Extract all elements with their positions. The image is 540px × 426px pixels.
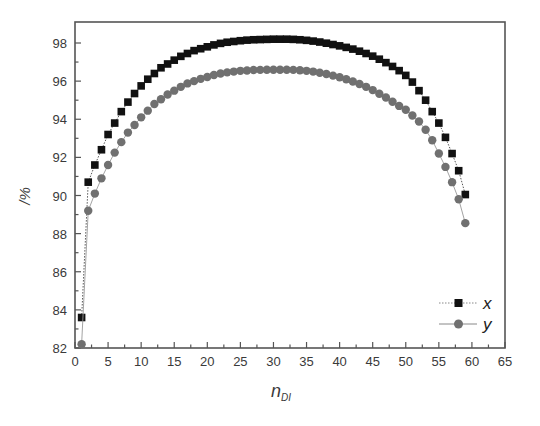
- legend-label: y: [482, 315, 493, 334]
- legend: xy: [439, 294, 493, 334]
- data-point: [177, 53, 185, 61]
- y-tick-label: 82: [53, 341, 67, 356]
- y-tick-label: 88: [53, 227, 67, 242]
- x-tick-label: 45: [365, 354, 379, 369]
- y-axis: 828486889092949698: [53, 36, 81, 356]
- data-point: [448, 150, 456, 158]
- circle-marker-icon: [454, 320, 463, 329]
- data-point: [349, 45, 357, 53]
- data-point: [461, 219, 469, 227]
- x-axis-title-main: n: [271, 381, 281, 401]
- data-point: [131, 90, 139, 98]
- data-point: [118, 108, 126, 116]
- data-point: [170, 56, 178, 64]
- x-tick-label: 30: [266, 354, 280, 369]
- x-tick-label: 5: [104, 354, 111, 369]
- data-point: [77, 340, 85, 348]
- data-point: [276, 35, 284, 43]
- data-point: [84, 178, 92, 186]
- data-point: [237, 37, 245, 45]
- data-point: [356, 47, 364, 55]
- data-point: [124, 98, 132, 106]
- data-point: [442, 134, 450, 142]
- data-point: [369, 52, 377, 60]
- data-point: [111, 119, 119, 127]
- data-point: [204, 43, 212, 51]
- data-point: [243, 36, 251, 44]
- data-point: [124, 128, 132, 136]
- data-point: [290, 36, 298, 44]
- data-point: [151, 70, 159, 78]
- data-point: [323, 39, 331, 47]
- data-point: [435, 149, 443, 157]
- data-point: [395, 67, 403, 75]
- data-point: [210, 41, 218, 49]
- data-point: [409, 78, 417, 86]
- data-point: [157, 64, 165, 72]
- y-axis-title: /%: [16, 187, 33, 206]
- x-tick-label: 50: [399, 354, 413, 369]
- data-point: [137, 82, 145, 90]
- data-point: [110, 148, 118, 156]
- data-point: [428, 136, 436, 144]
- data-point: [303, 37, 311, 45]
- data-point: [448, 178, 456, 186]
- y-tick-label: 96: [53, 74, 67, 89]
- data-point: [309, 37, 317, 45]
- x-tick-label: 40: [332, 354, 346, 369]
- x-tick-label: 35: [299, 354, 313, 369]
- data-point: [408, 111, 416, 119]
- y-tick-label: 98: [53, 36, 67, 51]
- data-point: [362, 50, 370, 58]
- data-point: [415, 117, 423, 125]
- x-tick-label: 55: [432, 354, 446, 369]
- data-point: [91, 189, 99, 197]
- square-marker-icon: [455, 299, 463, 307]
- data-point: [376, 55, 384, 63]
- line-chart: 828486889092949698 051015202530354045505…: [0, 0, 540, 426]
- data-point: [270, 35, 278, 43]
- data-point: [329, 41, 337, 49]
- x-axis-title-sub: DI: [281, 392, 291, 403]
- data-point: [454, 195, 462, 203]
- data-point: [197, 45, 205, 53]
- y-tick-label: 90: [53, 189, 67, 204]
- data-point: [441, 163, 449, 171]
- data-point: [422, 96, 430, 104]
- data-point: [184, 50, 192, 58]
- data-point: [98, 146, 106, 154]
- x-tick-label: 60: [465, 354, 479, 369]
- data-point: [428, 108, 436, 116]
- y-tick-label: 86: [53, 265, 67, 280]
- data-point: [144, 75, 152, 83]
- data-point: [84, 207, 92, 215]
- legend-item-x: x: [439, 294, 492, 313]
- data-point: [455, 167, 463, 175]
- data-point: [117, 138, 125, 146]
- y-tick-label: 84: [53, 303, 67, 318]
- legend-item-y: y: [439, 315, 493, 334]
- data-point: [263, 36, 271, 44]
- data-point: [296, 36, 304, 44]
- data-point: [336, 42, 344, 50]
- data-point: [415, 87, 423, 95]
- data-point: [382, 59, 390, 67]
- x-tick-label: 15: [167, 354, 181, 369]
- data-point: [97, 174, 105, 182]
- data-point: [130, 121, 138, 129]
- data-point: [421, 126, 429, 134]
- data-point: [402, 106, 410, 114]
- data-point: [250, 36, 258, 44]
- data-point: [435, 119, 443, 127]
- data-point: [164, 60, 172, 68]
- legend-label: x: [482, 294, 492, 313]
- x-axis-title: nDI: [271, 381, 291, 403]
- x-tick-label: 25: [233, 354, 247, 369]
- data-point: [402, 72, 410, 80]
- data-point: [223, 38, 231, 46]
- data-point: [316, 38, 324, 46]
- y-tick-label: 92: [53, 150, 67, 165]
- data-point: [190, 47, 198, 55]
- y-tick-label: 94: [53, 112, 67, 127]
- data-point: [230, 38, 238, 46]
